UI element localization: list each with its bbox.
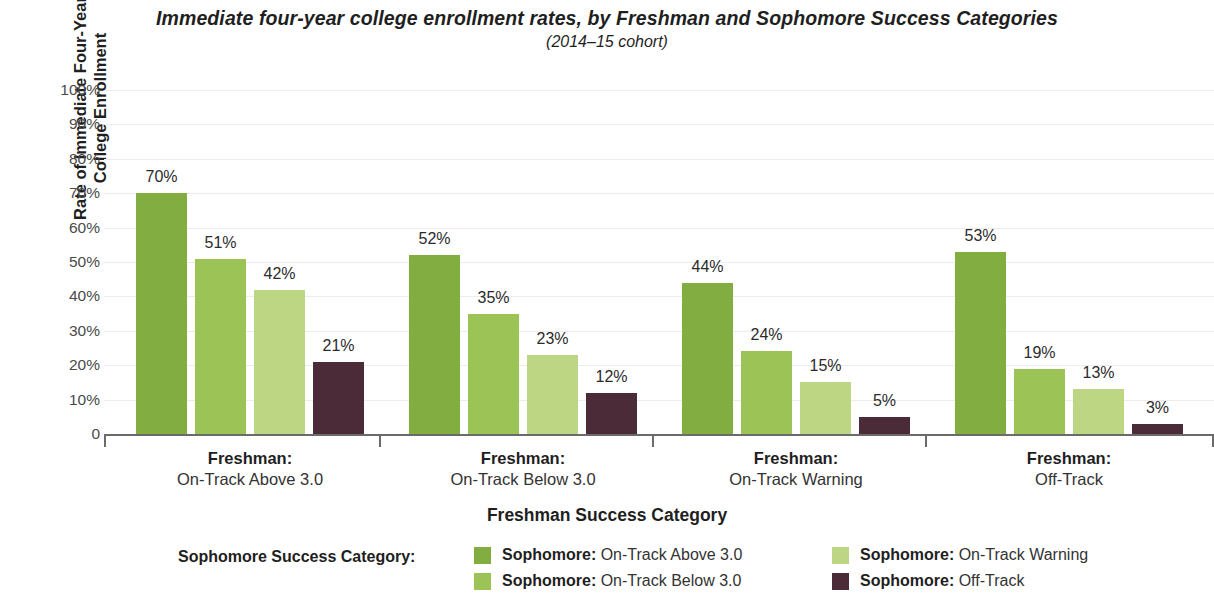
legend-item[interactable]: Sophomore: On-Track Warning — [832, 546, 1088, 564]
plot-area: 100%90%80%70%60%50%40%30%20%10%070%51%42… — [104, 90, 1214, 434]
gridline — [104, 193, 1214, 194]
legend-color-swatch — [474, 547, 491, 564]
bar — [527, 355, 578, 434]
x-axis-group-separator — [652, 434, 654, 447]
x-axis-group-separator — [925, 434, 927, 447]
x-axis-category-label: Freshman:On-Track Warning — [729, 448, 863, 491]
x-axis-category-label: Freshman:On-Track Above 3.0 — [177, 448, 323, 491]
x-axis-group-separator — [379, 434, 381, 447]
bar — [1073, 389, 1124, 434]
bar-value-label: 3% — [1146, 399, 1169, 417]
bar-value-label: 21% — [322, 337, 354, 355]
bar-value-label: 5% — [873, 392, 896, 410]
bar — [1014, 369, 1065, 434]
bar-value-label: 51% — [204, 234, 236, 252]
bar — [409, 255, 460, 434]
legend-color-swatch — [474, 573, 491, 590]
bar — [682, 283, 733, 434]
y-axis-tick-label: 70% — [0, 184, 100, 202]
bar-value-label: 53% — [964, 227, 996, 245]
bar-value-label: 23% — [536, 330, 568, 348]
chart-title-block: Immediate four-year college enrollment r… — [0, 6, 1214, 52]
y-axis-tick-label: 30% — [0, 322, 100, 340]
y-axis-tick-label: 100% — [0, 81, 100, 99]
page-title: Immediate four-year college enrollment r… — [0, 6, 1214, 30]
y-axis-tick-label: 90% — [0, 115, 100, 133]
category-label-line2: On-Track Below 3.0 — [450, 469, 595, 490]
legend-item[interactable]: Sophomore: Off-Track — [832, 572, 1024, 590]
bar-value-label: 12% — [595, 368, 627, 386]
x-axis-title: Freshman Success Category — [0, 505, 1214, 526]
y-axis-tick-label: 80% — [0, 150, 100, 168]
x-axis-category-label: Freshman:On-Track Below 3.0 — [450, 448, 595, 491]
bar — [313, 362, 364, 434]
legend-item[interactable]: Sophomore: On-Track Above 3.0 — [474, 546, 742, 564]
bar — [741, 351, 792, 434]
bar-value-label: 24% — [750, 326, 782, 344]
category-label-line2: On-Track Above 3.0 — [177, 469, 323, 490]
legend-color-swatch — [832, 547, 849, 564]
bar-value-label: 42% — [263, 265, 295, 283]
x-axis-category-label: Freshman:Off-Track — [1027, 448, 1111, 491]
category-label-line1: Freshman: — [450, 448, 595, 469]
bar — [195, 259, 246, 434]
x-axis-left-endcap — [104, 434, 106, 447]
bar — [468, 314, 519, 434]
y-axis-tick-label: 20% — [0, 356, 100, 374]
gridline — [104, 262, 1214, 263]
legend-item[interactable]: Sophomore: On-Track Below 3.0 — [474, 572, 741, 590]
legend-item-label: Sophomore: On-Track Below 3.0 — [502, 572, 741, 590]
gridline — [104, 124, 1214, 125]
gridline — [104, 159, 1214, 160]
bar-value-label: 13% — [1082, 364, 1114, 382]
bar — [586, 393, 637, 434]
bar — [955, 252, 1006, 434]
bar-value-label: 15% — [809, 357, 841, 375]
bar-value-label: 52% — [418, 230, 450, 248]
bar — [800, 382, 851, 434]
y-axis-tick-label: 0 — [0, 425, 100, 443]
legend: Sophomore Success Category: Sophomore: O… — [0, 546, 1214, 598]
category-label-line1: Freshman: — [177, 448, 323, 469]
category-label-line2: Off-Track — [1027, 469, 1111, 490]
legend-color-swatch — [832, 573, 849, 590]
x-axis-line — [104, 434, 1214, 436]
y-axis-tick-label: 50% — [0, 253, 100, 271]
gridline — [104, 90, 1214, 91]
bar — [1132, 424, 1183, 434]
gridline — [104, 228, 1214, 229]
category-label-line1: Freshman: — [729, 448, 863, 469]
chart-subtitle: (2014–15 cohort) — [0, 32, 1214, 52]
category-label-line2: On-Track Warning — [729, 469, 863, 490]
bar-value-label: 35% — [477, 289, 509, 307]
bar-value-label: 19% — [1023, 344, 1055, 362]
bar-value-label: 70% — [145, 168, 177, 186]
bar — [859, 417, 910, 434]
legend-item-label: Sophomore: On-Track Warning — [860, 546, 1088, 564]
y-axis-tick-label: 40% — [0, 287, 100, 305]
legend-title: Sophomore Success Category: — [178, 548, 415, 566]
bar-value-label: 44% — [691, 258, 723, 276]
bar — [136, 193, 187, 434]
category-label-line1: Freshman: — [1027, 448, 1111, 469]
legend-item-label: Sophomore: Off-Track — [860, 572, 1024, 590]
bar — [254, 290, 305, 434]
y-axis-tick-label: 60% — [0, 219, 100, 237]
y-axis-tick-label: 10% — [0, 391, 100, 409]
legend-item-label: Sophomore: On-Track Above 3.0 — [502, 546, 742, 564]
